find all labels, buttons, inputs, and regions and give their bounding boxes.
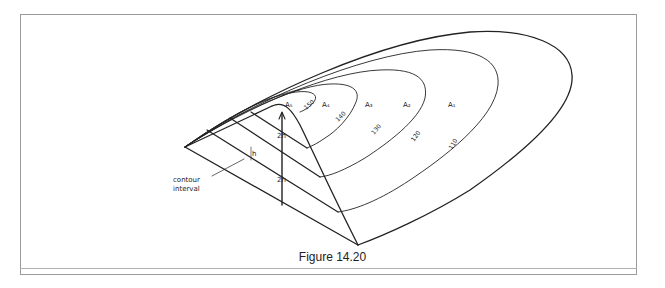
- contour-140: [185, 84, 357, 148]
- contour-120: [185, 50, 498, 212]
- figure-caption: Figure 14.20: [0, 250, 665, 264]
- contour-label-130: 130: [369, 122, 382, 135]
- region-label-a5: A₅: [285, 101, 293, 109]
- height-label-upper: 2h: [277, 132, 286, 140]
- region-label-a4: A₄: [322, 101, 330, 109]
- pyramid-base-edge: [185, 147, 358, 245]
- annotation-line2: interval: [173, 185, 200, 193]
- interval-label: h: [252, 150, 256, 158]
- contour-110: [185, 31, 572, 245]
- contour-label-110: 110: [447, 137, 459, 151]
- caption-divider: [20, 268, 637, 269]
- region-label-a2: A₂: [403, 101, 411, 109]
- interval-pointer: [212, 159, 244, 176]
- annotation-line1: contour: [173, 176, 200, 184]
- pyramid-ridge: [272, 104, 358, 245]
- contour-label-150: 150: [302, 98, 315, 111]
- contour-diagram: A₅ A₄ A₃ A₂ A₁ 150 140 130 120 110 2h 2h…: [0, 0, 665, 288]
- pyramid-left-edge: [185, 106, 272, 147]
- region-label-a3: A₃: [365, 101, 373, 109]
- region-label-a1: A₁: [448, 101, 456, 109]
- height-label-lower: 2h: [277, 176, 286, 184]
- contour-label-120: 120: [409, 129, 421, 143]
